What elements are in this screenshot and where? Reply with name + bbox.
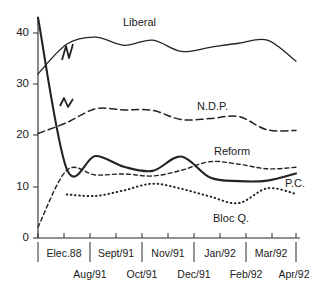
x-label-elec88: Elec.88: [46, 247, 81, 259]
x-label-apr92: Apr/92: [279, 268, 310, 280]
y-tick-label-0: 0: [23, 231, 29, 243]
y-axis-ticks: 40 30 20 10 0: [16, 26, 38, 243]
y-tick-label-20: 20: [16, 128, 29, 140]
x-label-jan92: Jan/92: [204, 247, 236, 259]
break-mark-pc: [60, 98, 73, 107]
y-tick-label-30: 30: [16, 77, 29, 89]
chart-canvas: 40 30 20 10 0: [0, 0, 318, 286]
x-label-sept91: Sept/91: [98, 247, 134, 259]
x-label-dec91: Dec/91: [177, 268, 210, 280]
x-tick-labels-lower: Aug/91 Oct/91 Dec/91 Feb/92 Apr/92: [73, 268, 309, 280]
axis-break-marks: [60, 44, 73, 107]
label-ndp: N.D.P.: [197, 100, 228, 112]
x-label-oct91: Oct/91: [127, 268, 158, 280]
y-tick-label-10: 10: [16, 180, 29, 192]
x-label-aug91: Aug/91: [73, 268, 106, 280]
x-label-mar92: Mar/92: [255, 247, 288, 259]
label-blocq: Bloc Q.: [213, 212, 249, 224]
x-label-feb92: Feb/92: [230, 268, 263, 280]
series-line-ndp: [38, 108, 296, 133]
x-axis-ticks: [38, 233, 296, 238]
poll-trend-chart: 40 30 20 10 0: [0, 0, 318, 286]
series-line-pc: [38, 18, 296, 182]
label-liberal: Liberal: [123, 16, 156, 28]
series-line-liberal: [38, 37, 296, 74]
series-line-blocq: [67, 184, 296, 204]
y-tick-label-40: 40: [16, 26, 29, 38]
series-lines: [38, 18, 296, 228]
x-tick-labels-upper: Elec.88 Sept/91 Nov/91 Jan/92 Mar/92: [46, 247, 287, 259]
label-reform: Reform: [214, 145, 250, 157]
label-pc: P.C.: [285, 177, 305, 189]
x-label-nov91: Nov/91: [151, 247, 184, 259]
series-line-reform: [38, 161, 296, 227]
